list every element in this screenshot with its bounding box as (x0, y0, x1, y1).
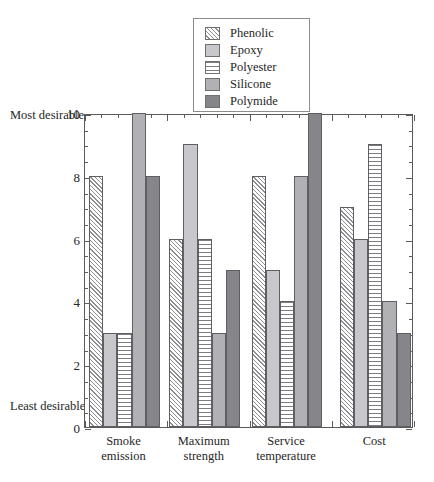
bar-polymide-cost (397, 333, 411, 427)
bar-polymide-service-temperature (308, 113, 322, 427)
bar-phenolic-cost (340, 207, 354, 427)
bar-phenolic-service-temperature (252, 176, 266, 427)
legend-swatch-polymide (205, 95, 220, 108)
bar-epoxy-smoke-emission (103, 333, 117, 427)
legend-label-polyester: Polyester (230, 61, 277, 74)
bar-phenolic-smoke-emission (89, 176, 103, 427)
plot-area (84, 114, 413, 428)
bar-phenolic-maximum-strength (169, 239, 183, 427)
legend-label-silicone: Silicone (230, 78, 271, 91)
x-tick-label: Cost (324, 434, 424, 449)
bar-silicone-service-temperature (294, 176, 308, 427)
bar-group (167, 115, 249, 427)
axis-note-least-line1: Least (10, 399, 37, 413)
chart-legend: Phenolic Epoxy Polyester Silicone Polymi… (193, 18, 310, 112)
x-tick-label-line: temperature (236, 449, 336, 464)
legend-item-epoxy: Epoxy (194, 42, 309, 59)
axis-tick (85, 429, 91, 430)
bar-series-container (85, 115, 412, 427)
y-axis-tick-labels: 1086420 (56, 114, 80, 428)
y-tick-label: 8 (58, 171, 80, 184)
legend-label-epoxy: Epoxy (230, 44, 263, 57)
bar-polymide-maximum-strength (226, 270, 240, 427)
legend-item-silicone: Silicone (194, 76, 309, 93)
legend-swatch-phenolic (205, 27, 220, 40)
bar-epoxy-cost (354, 239, 368, 427)
axis-tick (414, 115, 415, 121)
legend-item-polymide: Polymide (194, 93, 309, 110)
legend-swatch-epoxy (205, 44, 220, 57)
axis-tick (414, 421, 415, 427)
bar-polyester-service-temperature (280, 301, 294, 427)
bar-polymide-smoke-emission (146, 176, 160, 427)
x-tick-label-line: Cost (324, 434, 424, 449)
legend-swatch-polyester (205, 61, 220, 74)
legend-label-polymide: Polymide (230, 95, 278, 108)
x-tick-label: Servicetemperature (236, 434, 336, 464)
y-tick-label: 10 (58, 108, 80, 121)
bar-group (332, 115, 414, 427)
bar-silicone-cost (382, 301, 396, 427)
bar-group (250, 115, 332, 427)
bar-polyester-smoke-emission (117, 333, 131, 427)
bar-epoxy-service-temperature (266, 270, 280, 427)
y-tick-label: 6 (58, 234, 80, 247)
legend-swatch-silicone (205, 78, 220, 91)
bar-epoxy-maximum-strength (183, 144, 197, 427)
bar-polyester-maximum-strength (198, 239, 212, 427)
bar-chart-figure: Phenolic Epoxy Polyester Silicone Polymi… (0, 0, 434, 482)
bar-group (85, 115, 167, 427)
x-tick-label-line: Service (236, 434, 336, 449)
bar-silicone-smoke-emission (132, 113, 146, 427)
legend-label-phenolic: Phenolic (230, 27, 274, 40)
bar-silicone-maximum-strength (212, 333, 226, 427)
axis-tick (406, 429, 412, 430)
bar-polyester-cost (368, 144, 382, 427)
axis-note-most-line1: Most (10, 108, 36, 122)
legend-item-phenolic: Phenolic (194, 25, 309, 42)
y-tick-label: 2 (58, 359, 80, 372)
y-tick-label: 4 (58, 296, 80, 309)
legend-item-polyester: Polyester (194, 59, 309, 76)
